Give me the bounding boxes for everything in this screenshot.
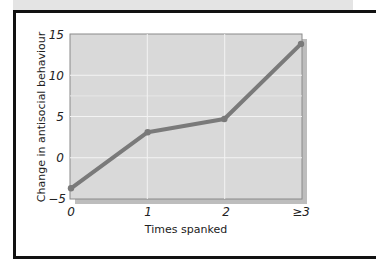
y-tick-minus5: −5	[48, 192, 66, 206]
data-point	[144, 129, 150, 135]
data-point	[68, 185, 74, 191]
x-axis-ticks: 0 1 2 ≥3	[67, 205, 310, 219]
y-tick-0: 0	[56, 151, 64, 165]
data-point	[221, 116, 227, 122]
x-tick-1: 1	[144, 205, 152, 219]
x-axis-title: Times spanked	[144, 223, 227, 236]
y-axis-ticks: 15 10 5 0 −5	[48, 28, 66, 206]
y-tick-5: 5	[56, 110, 64, 124]
x-tick-3plus: ≥3	[292, 205, 310, 219]
x-tick-2: 2	[222, 205, 230, 219]
y-tick-15: 15	[49, 28, 64, 42]
x-tick-0: 0	[67, 205, 75, 219]
data-point	[298, 41, 304, 47]
y-axis-title: Change in antisocial behaviour	[35, 31, 48, 202]
y-tick-10: 10	[49, 69, 65, 83]
